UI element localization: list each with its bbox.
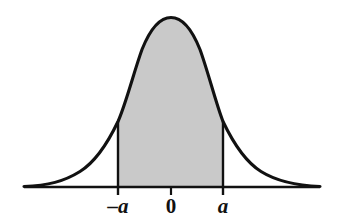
axis-tick-label-zero: 0 [166, 196, 177, 217]
axis-tick-label-negative-a: –a [108, 196, 129, 217]
shaded-area-between-bounds [24, 18, 320, 187]
normal-distribution-figure: –a 0 a [0, 0, 337, 224]
axis-tick-label-positive-a: a [218, 196, 229, 217]
shaded-area-fill [24, 18, 320, 187]
distribution-plot-canvas [0, 0, 337, 224]
